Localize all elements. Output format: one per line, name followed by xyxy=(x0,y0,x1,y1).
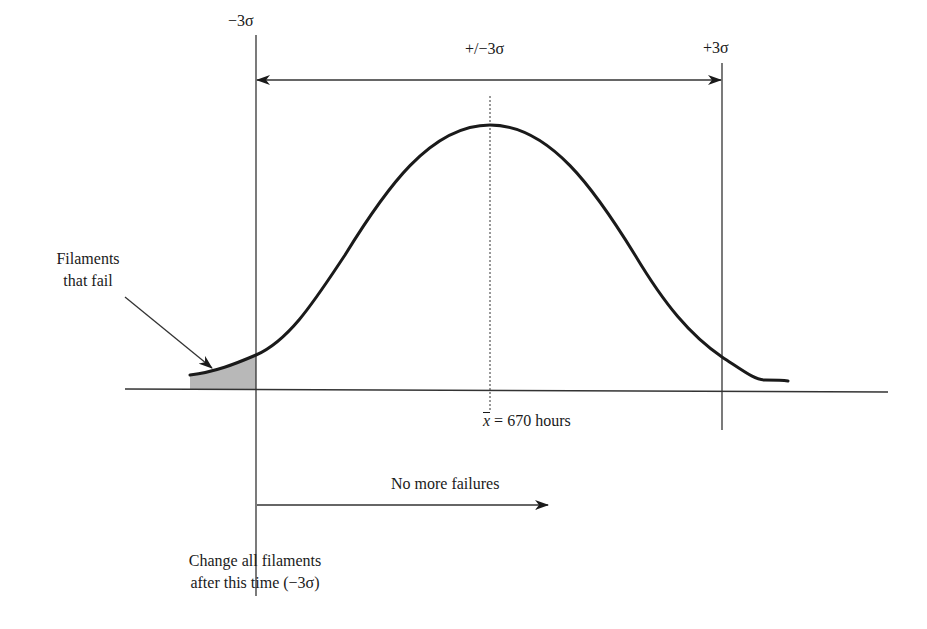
minus-3-sigma-label: −3σ xyxy=(228,11,254,30)
filaments-fail-line2: that fail xyxy=(28,271,148,290)
mean-symbol: x xyxy=(483,411,490,430)
bell-curve xyxy=(190,125,788,381)
mean-label: x = 670 hours xyxy=(483,411,571,430)
plus-3-sigma-label: +3σ xyxy=(703,38,729,57)
filaments-fail-label: Filaments that fail xyxy=(28,249,148,290)
change-filaments-line2: after this time (−3σ) xyxy=(160,573,350,592)
change-filaments-label: Change all filaments after this time (−3… xyxy=(160,551,350,592)
x-axis-baseline xyxy=(125,389,888,392)
filaments-fail-line1: Filaments xyxy=(28,249,148,268)
plus-minus-3-sigma-label: +/−3σ xyxy=(465,39,504,58)
no-more-failures-label: No more failures xyxy=(391,474,499,493)
filaments-fail-pointer-arrow xyxy=(125,297,212,368)
mean-value: = 670 hours xyxy=(490,412,571,429)
normal-distribution-diagram xyxy=(0,0,927,629)
change-filaments-line1: Change all filaments xyxy=(160,551,350,570)
